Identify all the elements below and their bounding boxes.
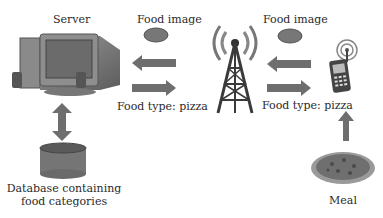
food-image-label-right: Food image: [263, 13, 328, 26]
pizza-thumbnail-icon: [277, 28, 303, 44]
food-type-label-left: Food type: pizza: [117, 100, 208, 113]
server-label: Server: [53, 13, 90, 26]
database-cylinder-icon: [38, 142, 88, 180]
database-label-line2: food categories: [0, 195, 128, 208]
arrow-left-to-tower: [267, 56, 311, 72]
desktop-computer-icon: [0, 30, 128, 98]
pizza-thumbnail-icon: [143, 27, 169, 43]
arrow-right-to-phone: [267, 80, 311, 96]
database-label: Database containing food categories: [0, 182, 128, 208]
arrow-up-to-phone: [338, 111, 354, 141]
pizza-plate-icon: [310, 150, 376, 186]
meal-label: Meal: [310, 194, 376, 207]
server-database-arrow: [52, 103, 72, 141]
database-label-line1: Database containing: [0, 182, 128, 195]
mobile-phone-icon: [325, 38, 365, 94]
radio-tower-icon: [200, 18, 270, 118]
arrow-right-to-tower: [132, 80, 176, 96]
food-image-label-left: Food image: [137, 13, 202, 26]
arrow-left-to-server: [132, 55, 176, 71]
